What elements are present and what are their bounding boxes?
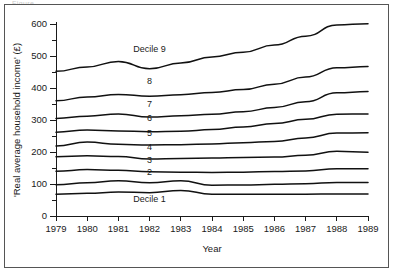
series-label-decile-1: Decile 1 xyxy=(133,194,166,204)
series-label-decile-6: 6 xyxy=(147,113,152,123)
series-line-decile-4 xyxy=(56,151,368,159)
svg-text:1981: 1981 xyxy=(108,223,129,234)
x-axis-title: Year xyxy=(202,243,221,254)
svg-text:1989: 1989 xyxy=(357,223,378,234)
series-label-decile-9: Decile 9 xyxy=(133,44,166,54)
svg-text:1983: 1983 xyxy=(170,223,191,234)
series-line-decile-9 xyxy=(56,24,368,72)
svg-text:1980: 1980 xyxy=(77,223,98,234)
series-label-decile-3: 3 xyxy=(147,155,152,165)
svg-text:1987: 1987 xyxy=(295,223,316,234)
svg-text:0: 0 xyxy=(42,210,47,221)
series-label-decile-5: 5 xyxy=(147,128,152,138)
y-axis-title: 'Real average household income' (£) xyxy=(11,43,22,197)
series-line-decile-1 xyxy=(56,190,368,194)
series-line-decile-2 xyxy=(56,181,368,185)
series-label-decile-7: 7 xyxy=(147,99,152,109)
series-label-decile-4: 4 xyxy=(147,142,152,152)
svg-text:1988: 1988 xyxy=(326,223,347,234)
svg-text:600: 600 xyxy=(31,18,47,29)
svg-text:200: 200 xyxy=(31,146,47,157)
svg-text:300: 300 xyxy=(31,114,47,125)
figure-container: Figure 0100200300400500600 1979198019811… xyxy=(0,0,398,280)
x-axis-ticks xyxy=(56,216,368,221)
series-line-decile-3 xyxy=(56,169,368,173)
svg-text:1982: 1982 xyxy=(139,223,160,234)
y-axis-tick-labels: 0100200300400500600 xyxy=(31,18,47,221)
y-axis-major-ticks xyxy=(50,24,56,216)
series-line-decile-5 xyxy=(56,133,368,146)
line-chart: 0100200300400500600 19791980198119821983… xyxy=(0,0,398,280)
series-lines-group xyxy=(56,24,368,195)
svg-text:100: 100 xyxy=(31,178,47,189)
series-line-decile-8 xyxy=(56,67,368,101)
svg-text:400: 400 xyxy=(31,82,47,93)
x-axis-tick-labels: 1979198019811982198319841985198619871988… xyxy=(45,223,378,234)
series-label-decile-8: 8 xyxy=(147,76,152,86)
series-label-decile-2: 2 xyxy=(147,167,152,177)
svg-text:1979: 1979 xyxy=(45,223,66,234)
svg-text:1985: 1985 xyxy=(233,223,254,234)
svg-text:1984: 1984 xyxy=(201,223,222,234)
series-line-decile-6 xyxy=(56,114,368,132)
svg-text:500: 500 xyxy=(31,50,47,61)
svg-text:1986: 1986 xyxy=(264,223,285,234)
